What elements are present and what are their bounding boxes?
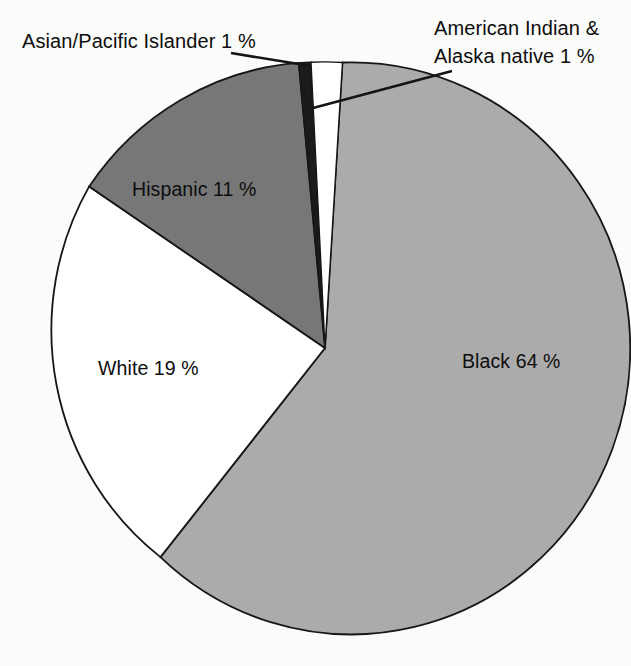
pie-chart-figure: Asian/Pacific Islander 1 % American Indi… xyxy=(0,0,631,666)
label-american-indian-line1: American Indian & xyxy=(434,17,600,39)
leader-line-asian-pacific-islander xyxy=(231,53,311,66)
pie-chart-svg: Asian/Pacific Islander 1 % American Indi… xyxy=(0,0,631,666)
label-american-indian-line2: Alaska native 1 % xyxy=(434,45,595,67)
label-white: White 19 % xyxy=(98,357,199,379)
label-hispanic: Hispanic 11 % xyxy=(132,178,257,200)
label-asian-pacific-islander: Asian/Pacific Islander 1 % xyxy=(22,30,256,52)
label-black: Black 64 % xyxy=(462,350,561,372)
